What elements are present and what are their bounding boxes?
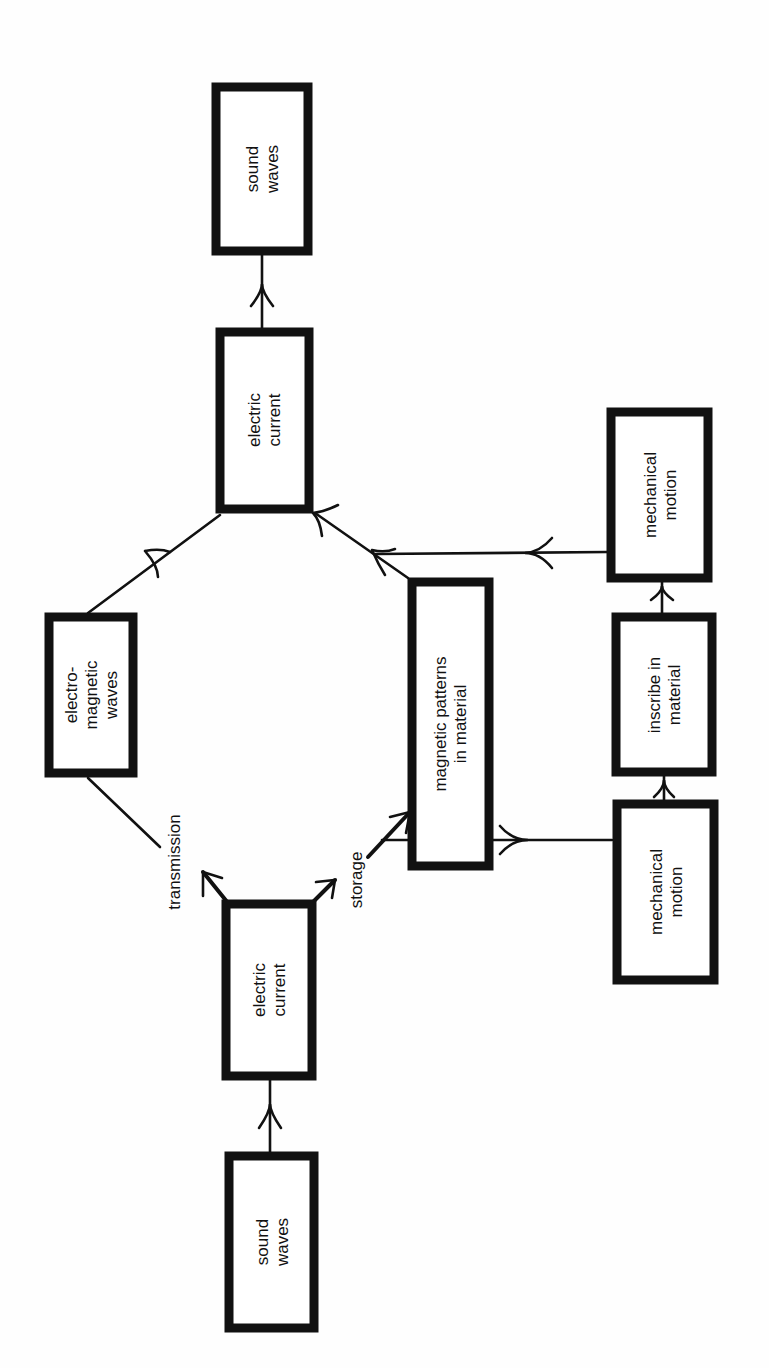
- node-inscribe-in-material: inscribe in material: [616, 617, 712, 772]
- edge-magnetic-to-current: [315, 513, 408, 578]
- node-label: motion: [667, 866, 686, 917]
- node-label: sound: [243, 146, 262, 192]
- node-electric-current-output: electric current: [220, 332, 309, 509]
- edge-transmission-to-em: [88, 778, 160, 847]
- node-label: motion: [661, 469, 680, 520]
- edge-mechanical-to-current: [375, 552, 607, 554]
- node-label: material: [665, 665, 684, 725]
- node-label: waves: [273, 1218, 292, 1267]
- node-label: inscribe in: [645, 657, 664, 734]
- edge-label-storage: storage: [347, 852, 366, 909]
- node-electromagnetic-waves: electro- magnetic waves: [49, 617, 133, 773]
- node-label: waves: [102, 671, 121, 720]
- node-label: mechanical: [647, 849, 666, 935]
- node-mechanical-motion-input: mechanical motion: [617, 804, 714, 980]
- node-label: electric: [250, 963, 269, 1017]
- node-label: electric: [245, 393, 264, 447]
- node-label: sound: [253, 1219, 272, 1265]
- node-sound-waves-output: sound waves: [216, 87, 308, 251]
- node-sound-waves-input: sound waves: [229, 1156, 314, 1328]
- node-label: magnetic: [82, 660, 101, 729]
- node-label: magnetic patterns: [431, 656, 450, 791]
- edge-label-transmission: transmission: [165, 814, 184, 909]
- node-label: waves: [263, 145, 282, 194]
- node-magnetic-patterns: magnetic patterns in material: [412, 582, 489, 866]
- diagram-canvas: sound waves electric current electro- ma…: [0, 0, 769, 1368]
- node-label: current: [270, 963, 289, 1016]
- node-label: current: [265, 393, 284, 446]
- edge-storage-to-magnetic: [368, 812, 410, 857]
- node-electric-current-input: electric current: [226, 904, 312, 1076]
- node-label: in material: [451, 685, 470, 763]
- node-mechanical-motion-output: mechanical motion: [611, 412, 708, 578]
- node-label: mechanical: [641, 452, 660, 538]
- node-label: electro-: [62, 667, 81, 724]
